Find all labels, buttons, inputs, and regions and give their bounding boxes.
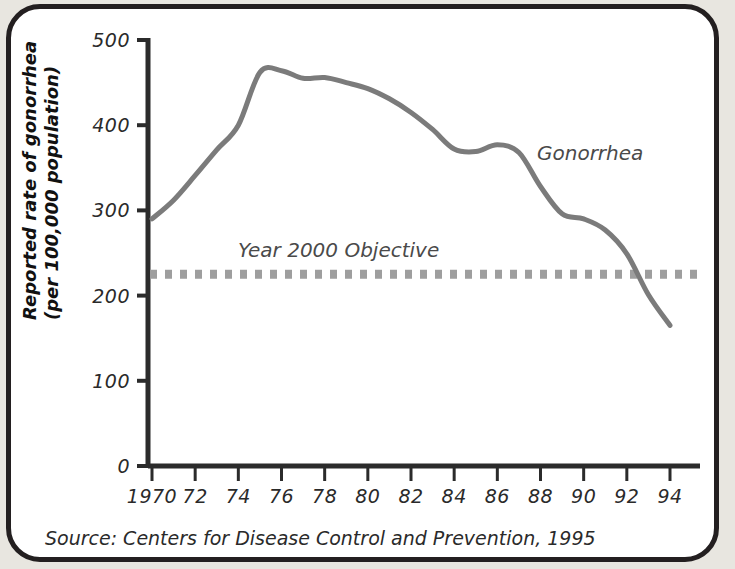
y-axis-ticks: 0100200300400500 [92,29,150,477]
x-tick-label: 78 [312,485,337,507]
y-tick-label: 100 [92,370,130,392]
x-tick-label: 76 [269,485,294,507]
gonorrhea-rate-line-chart: 0100200300400500 19707274767880828486889… [0,0,735,569]
y-tick-label: 0 [117,455,130,477]
gonorrhea-line-path [152,68,670,326]
x-tick-label: 88 [528,485,553,507]
y-axis-title-line2: (per 100,000 population) [41,66,62,320]
plot-area: 0100200300400500 19707274767880828486889… [0,0,735,569]
x-tick-label: 90 [571,485,596,507]
x-tick-label: 84 [442,485,467,507]
x-tick-label: 80 [355,485,380,507]
x-tick-label: 86 [485,485,510,507]
gonorrhea-series-line [152,68,670,326]
x-tick-label: 72 [183,485,208,507]
annotation-year-2000-objective: Year 2000 Objective [238,238,439,262]
x-tick-label: 94 [657,485,682,507]
x-axis-ticks: 1970727476788082848688909294 [127,468,683,507]
x-tick-label: 1970 [127,485,177,507]
chart-page: 0100200300400500 19707274767880828486889… [0,0,735,569]
y-tick-label: 200 [92,285,130,307]
source-note: Source: Centers for Disease Control and … [45,527,596,549]
annotation-gonorrhea: Gonorrhea [537,141,643,165]
x-tick-label: 82 [398,485,423,507]
y-tick-label: 300 [92,199,130,221]
y-axis-title-line1: Reported rate of gonorrhea [19,41,40,320]
x-tick-label: 74 [226,485,251,507]
x-tick-label: 92 [614,485,639,507]
y-tick-label: 400 [92,114,130,136]
y-tick-label: 500 [92,29,130,51]
